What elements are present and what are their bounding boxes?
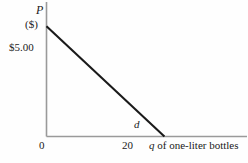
demand-curve-label: d — [134, 119, 140, 130]
x-axis-title-text: of one-liter bottles — [155, 139, 239, 151]
price-intercept-tick-label: $5.00 — [9, 42, 34, 53]
y-axis-unit-label: ($) — [25, 19, 38, 30]
y-axis-title: P — [36, 4, 43, 16]
quantity-tick-label: 20 — [122, 140, 133, 151]
demand-curve-figure: P ($) $5.00 0 20 d q of one-liter bottle… — [0, 0, 248, 163]
origin-tick-label: 0 — [39, 140, 45, 151]
x-axis-title: q of one-liter bottles — [149, 140, 239, 151]
demand-curve-line — [47, 26, 165, 136]
